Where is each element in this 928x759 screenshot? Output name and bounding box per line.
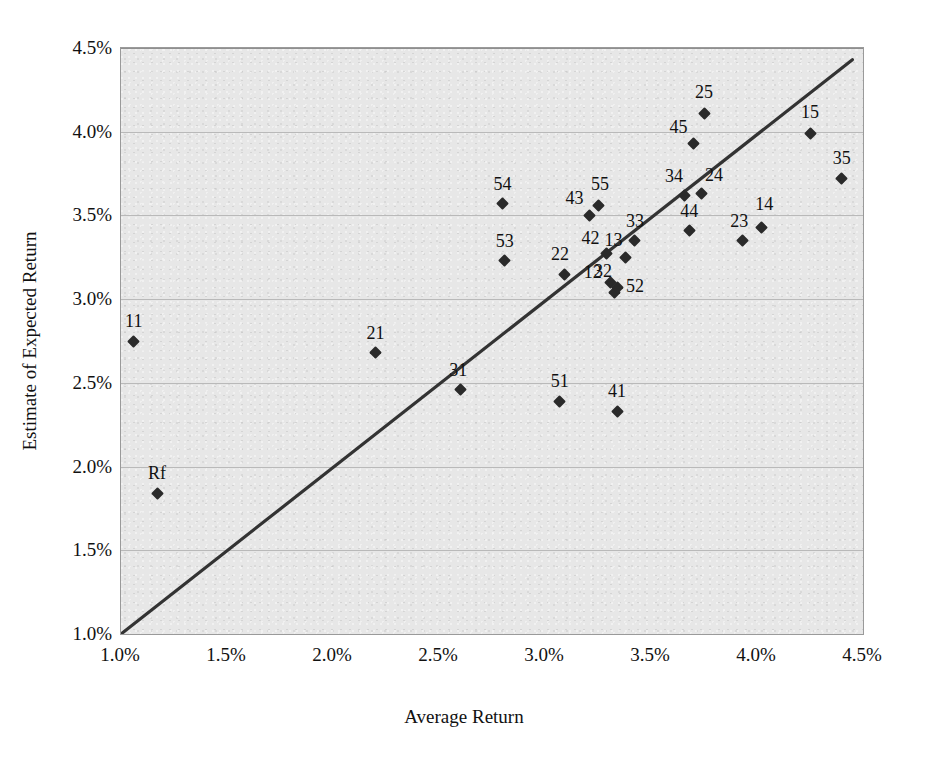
x-axis-tick-label: 1.0%	[75, 645, 165, 664]
y-axis-tick-label: 4.0%	[0, 122, 112, 141]
y-axis-tick-label: 3.5%	[0, 205, 112, 224]
scatter-chart-figure: 11Rf213154535122435542124152321333344445…	[0, 0, 928, 759]
y-axis-tick-label: 2.0%	[0, 457, 112, 476]
x-axis-tick-label: 4.0%	[711, 645, 801, 664]
x-axis-tick-label: 1.5%	[181, 645, 271, 664]
reference-line	[121, 48, 863, 634]
x-axis-tick-label: 3.5%	[605, 645, 695, 664]
x-axis-tick-label: 2.0%	[287, 645, 377, 664]
y-axis-tick-label: 2.5%	[0, 373, 112, 392]
x-axis-tick-label: 2.5%	[393, 645, 483, 664]
y-axis-tick-label: 1.5%	[0, 540, 112, 559]
plot-area: 11Rf213154535122435542124152321333344445…	[120, 47, 864, 635]
y-axis-tick-label: 1.0%	[0, 624, 112, 643]
y-axis-tick-label: 3.0%	[0, 289, 112, 308]
y-axis-tick-label: 4.5%	[0, 38, 112, 57]
x-axis-tick-label: 3.0%	[499, 645, 589, 664]
y-axis-title: Estimate of Expected Return	[19, 111, 41, 571]
x-axis-title: Average Return	[0, 706, 928, 728]
x-axis-tick-label: 4.5%	[817, 645, 907, 664]
